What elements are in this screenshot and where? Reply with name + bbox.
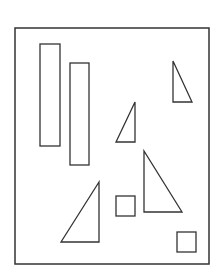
triangles-group	[61, 61, 192, 242]
tall-rect-2	[70, 63, 89, 165]
squares-group	[116, 196, 196, 252]
square-2	[177, 232, 196, 252]
shapes-diagram	[0, 0, 221, 270]
square-1	[116, 196, 135, 216]
diagram-svg	[0, 0, 221, 270]
triangle-top-right	[173, 61, 192, 102]
rectangles-group	[40, 44, 89, 165]
triangle-bottom-left	[61, 182, 99, 242]
triangle-right-large	[144, 151, 182, 212]
tall-rect-1	[40, 44, 60, 146]
triangle-middle-small	[116, 102, 135, 142]
